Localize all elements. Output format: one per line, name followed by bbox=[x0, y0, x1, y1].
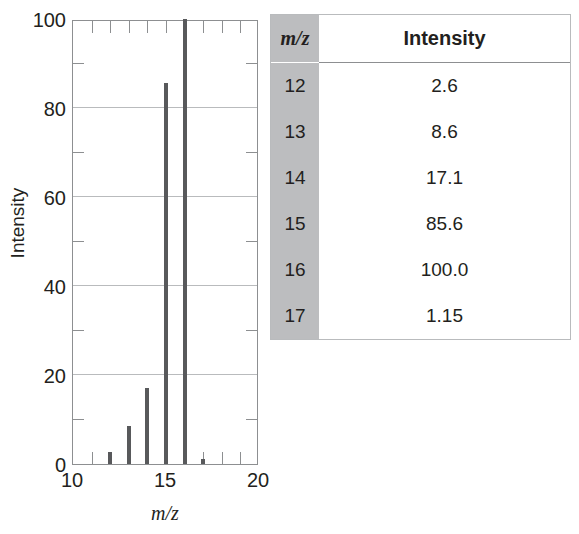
mass-spectrum-chart: 100806040200 101520 Intensity m/z bbox=[0, 0, 272, 534]
tick-bottom-11 bbox=[92, 452, 93, 464]
table-row: 171.15 bbox=[271, 293, 570, 339]
tick-top-17 bbox=[203, 21, 204, 33]
tick-right-50 bbox=[246, 241, 257, 242]
cell-intensity: 17.1 bbox=[319, 155, 570, 201]
bar-mz-13 bbox=[127, 426, 131, 464]
tick-left-70 bbox=[73, 152, 84, 153]
tick-right-10 bbox=[246, 419, 257, 420]
y-tick-label-20: 20 bbox=[44, 366, 66, 386]
cell-intensity: 85.6 bbox=[319, 201, 570, 247]
cell-mz: 17 bbox=[271, 293, 319, 339]
tick-top-11 bbox=[92, 21, 93, 33]
x-tick-label-10: 10 bbox=[61, 470, 83, 490]
table-row: 122.6 bbox=[271, 63, 570, 110]
cell-intensity: 8.6 bbox=[319, 109, 570, 155]
x-tick-label-15: 15 bbox=[154, 470, 176, 490]
bar-mz-17 bbox=[201, 459, 205, 464]
tick-left-30 bbox=[73, 330, 84, 331]
tick-bottom-19 bbox=[240, 452, 241, 464]
cell-intensity: 1.15 bbox=[319, 293, 570, 339]
y-tick-label-40: 40 bbox=[44, 277, 66, 297]
intensity-data-table: m/z Intensity 122.6138.61417.11585.61610… bbox=[270, 14, 571, 340]
tick-top-13 bbox=[129, 21, 130, 33]
x-tick-label-20: 20 bbox=[247, 470, 269, 490]
bar-mz-16 bbox=[183, 19, 187, 464]
tick-right-70 bbox=[246, 152, 257, 153]
tick-top-19 bbox=[240, 21, 241, 33]
table-row: 1417.1 bbox=[271, 155, 570, 201]
table-header-mz: m/z bbox=[271, 15, 319, 63]
bar-mz-15 bbox=[164, 83, 168, 464]
cell-intensity: 100.0 bbox=[319, 247, 570, 293]
cell-mz: 16 bbox=[271, 247, 319, 293]
tick-top-15 bbox=[166, 21, 167, 33]
tick-bottom-18 bbox=[222, 452, 223, 464]
tick-left-90 bbox=[73, 63, 84, 64]
table-row: 1585.6 bbox=[271, 201, 570, 247]
plot-area bbox=[72, 20, 258, 465]
y-tick-label-100: 100 bbox=[33, 10, 66, 30]
cell-intensity: 2.6 bbox=[319, 63, 570, 110]
tick-right-30 bbox=[246, 330, 257, 331]
y-axis-title: Intensity bbox=[7, 163, 29, 283]
table-header-row: m/z Intensity bbox=[271, 15, 570, 63]
y-tick-label-80: 80 bbox=[44, 99, 66, 119]
x-axis-title: m/z bbox=[72, 502, 258, 525]
cell-mz: 14 bbox=[271, 155, 319, 201]
table-row: 16100.0 bbox=[271, 247, 570, 293]
bar-mz-14 bbox=[145, 388, 149, 464]
tick-top-12 bbox=[110, 21, 111, 33]
tick-top-14 bbox=[147, 21, 148, 33]
table-body: 122.6138.61417.11585.616100.0171.15 bbox=[271, 63, 570, 340]
table-header-intensity: Intensity bbox=[319, 15, 570, 63]
x-axis-tick-labels: 101520 bbox=[0, 470, 272, 500]
cell-mz: 12 bbox=[271, 63, 319, 110]
table-row: 138.6 bbox=[271, 109, 570, 155]
cell-mz: 13 bbox=[271, 109, 319, 155]
y-tick-label-60: 60 bbox=[44, 188, 66, 208]
tick-left-50 bbox=[73, 241, 84, 242]
tick-left-10 bbox=[73, 419, 84, 420]
cell-mz: 15 bbox=[271, 201, 319, 247]
tick-right-90 bbox=[246, 63, 257, 64]
mass-spectrum-figure: 100806040200 101520 Intensity m/z m/z In… bbox=[0, 0, 579, 534]
tick-top-18 bbox=[222, 21, 223, 33]
bar-mz-12 bbox=[108, 452, 112, 464]
